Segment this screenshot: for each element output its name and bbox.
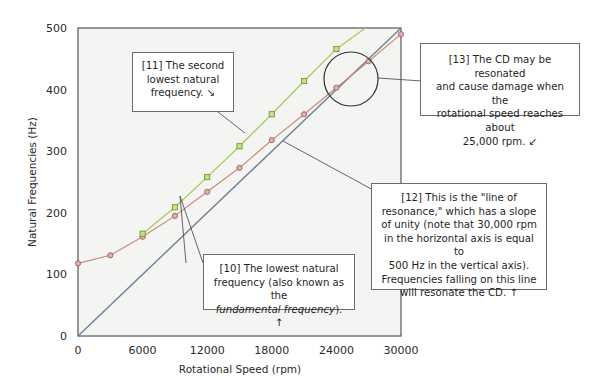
data-point-circle [172, 213, 177, 218]
data-point-square [172, 205, 177, 210]
x-tick-label: 0 [75, 344, 82, 357]
x-tick-label: 6000 [129, 344, 157, 357]
callout-13-line: [13] The CD may be resonated [427, 53, 573, 80]
data-point-circle [269, 138, 274, 143]
x-tick-label: 12000 [190, 344, 225, 357]
data-point-circle [205, 189, 210, 194]
data-point-square [237, 144, 242, 149]
callout-12-line: 500 Hz in the vertical axis). [378, 259, 540, 273]
data-point-circle [302, 112, 307, 117]
callout-10: [10] The lowest natural frequency (also … [203, 254, 355, 310]
data-point-circle [75, 261, 80, 266]
data-point-circle [237, 165, 242, 170]
callout-11-line: frequency. ↘ [139, 86, 227, 100]
y-axis: 0100200300400500 [46, 22, 67, 343]
y-tick-label: 500 [46, 22, 67, 35]
data-point-circle [366, 59, 371, 64]
callout-10-line: [10] The lowest natural [210, 262, 348, 276]
data-point-square [302, 78, 307, 83]
callout-12-line: Frequencies falling on this line [378, 273, 540, 287]
callout-12-line: in the horizontal axis is equal to [378, 232, 540, 259]
data-point-circle [108, 253, 113, 258]
callout-12-line: will resonate the CD. ↑ [378, 286, 540, 300]
data-point-square [140, 231, 145, 236]
callout-12-line: resonance," which has a slope [378, 205, 540, 219]
callout-13-line: and cause damage when the [427, 80, 573, 107]
callout-10-italic: fundamental frequency [216, 304, 335, 315]
x-axis-label: Rotational Speed (rpm) [179, 363, 301, 375]
y-tick-label: 100 [46, 268, 67, 281]
x-tick-label: 18000 [254, 344, 289, 357]
callout-11-line: lowest natural [139, 73, 227, 87]
y-tick-label: 400 [46, 84, 67, 97]
callout-12-line: of unity (note that 30,000 rpm [378, 218, 540, 232]
callout-13: [13] The CD may be resonated and cause d… [420, 43, 580, 116]
callout-11: [11] The second lowest natural frequency… [132, 52, 234, 112]
data-point-square [334, 46, 339, 51]
y-tick-label: 0 [60, 330, 67, 343]
callout-10-line: frequency (also known as the [210, 276, 348, 303]
y-tick-label: 200 [46, 207, 67, 220]
data-point-square [205, 174, 210, 179]
data-point-circle [334, 85, 339, 90]
y-axis-label: Natural Frequencies (Hz) [26, 117, 38, 247]
callout-13-line: rotational speed reaches about [427, 107, 573, 134]
y-tick-label: 300 [46, 145, 67, 158]
data-point-circle [398, 32, 403, 37]
x-axis: 0600012000180002400030000 [75, 344, 419, 357]
callout-10-line: fundamental frequency). ↑ [210, 303, 348, 330]
x-tick-label: 24000 [319, 344, 354, 357]
callout-13-line: 25,000 rpm. ↙ [427, 135, 573, 149]
callout-12: [12] This is the "line of resonance," wh… [371, 183, 547, 290]
callout-11-line: [11] The second [139, 59, 227, 73]
callout-12-line: [12] This is the "line of [378, 191, 540, 205]
x-tick-label: 30000 [384, 344, 419, 357]
data-point-square [269, 112, 274, 117]
